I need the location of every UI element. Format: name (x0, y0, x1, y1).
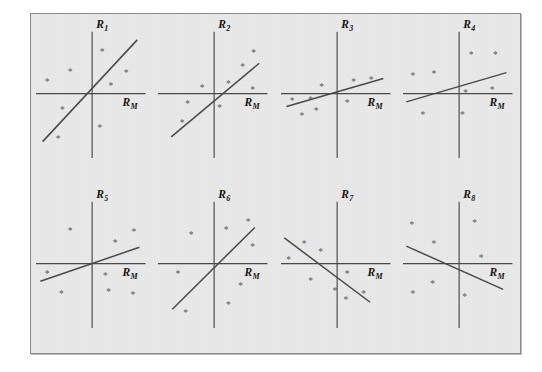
data-point-marker: * (431, 238, 436, 248)
data-point-marker: * (200, 83, 205, 93)
data-point-marker: * (462, 291, 467, 301)
data-point-marker: * (106, 286, 111, 296)
data-point-marker: * (410, 289, 415, 299)
data-point-marker: * (430, 278, 435, 288)
x-axis-label: RM (121, 265, 138, 280)
figure-root: ********R1RM********R2RM********R3RM****… (0, 0, 542, 372)
data-point-marker: * (251, 242, 256, 252)
y-axis-label-subscript: 3 (348, 24, 353, 33)
panel-canvas: *******R8RM (398, 184, 520, 354)
data-point-marker: * (45, 269, 50, 279)
y-axis-label: R7 (340, 188, 354, 203)
x-axis-label-subscript: M (496, 271, 505, 280)
y-axis-label-subscript: 2 (226, 24, 231, 33)
data-point-marker: * (246, 216, 251, 226)
data-point-marker: * (409, 220, 414, 230)
data-point-marker: * (313, 106, 318, 116)
y-axis-label: R5 (95, 188, 108, 203)
y-axis-label-subscript: 8 (471, 194, 475, 203)
x-axis-label: RM (121, 96, 138, 111)
data-point-marker: * (308, 276, 313, 286)
data-point-marker: * (103, 270, 108, 280)
data-point-marker: * (241, 62, 246, 72)
regression-line (43, 40, 138, 142)
scatter-panel-5: ********R5RM (31, 184, 153, 354)
x-axis-label-subscript: M (374, 271, 383, 280)
data-point-marker: * (344, 269, 349, 279)
x-axis-label-subscript: M (130, 271, 139, 280)
data-point-marker: * (420, 110, 425, 120)
x-axis-label: RM (488, 96, 505, 111)
data-point-marker: * (460, 110, 465, 120)
data-point-marker: * (368, 75, 373, 85)
data-point-marker: * (45, 77, 50, 87)
data-point-marker: * (343, 295, 348, 305)
scatter-panel-1: ********R1RM (31, 14, 153, 184)
data-point-marker: * (113, 237, 118, 247)
data-point-marker: * (132, 227, 137, 237)
y-axis-label: R2 (217, 18, 230, 33)
data-point-marker: * (289, 96, 294, 106)
data-point-marker: * (60, 105, 65, 115)
panel-canvas: ********R4RM (398, 14, 520, 184)
data-point-marker: * (186, 99, 191, 109)
data-point-marker: * (226, 79, 231, 89)
data-point-marker: * (479, 253, 484, 263)
scatter-panel-8: *******R8RM (398, 184, 520, 354)
y-axis-label-subscript: 4 (470, 24, 475, 33)
data-point-marker: * (176, 269, 181, 279)
data-point-marker: * (286, 255, 291, 265)
y-axis-label: R3 (340, 18, 353, 33)
data-point-marker: * (130, 290, 135, 300)
data-point-marker: * (251, 85, 256, 95)
regression-line (284, 237, 370, 301)
x-axis-label-subscript: M (130, 102, 139, 111)
scatter-panel-2: ********R2RM (153, 14, 275, 184)
data-point-marker: * (68, 226, 73, 236)
data-point-marker: * (463, 88, 468, 98)
y-axis-label: R4 (462, 18, 475, 33)
data-point-marker: * (361, 289, 366, 299)
y-axis-label-subscript: 6 (227, 194, 231, 203)
scatter-panel-7: ********R7RM (276, 184, 398, 354)
x-axis-label: RM (244, 265, 261, 280)
data-point-marker: * (431, 69, 436, 79)
x-axis-label: RM (244, 96, 261, 111)
y-axis-label: R1 (95, 18, 108, 33)
data-point-marker: * (490, 85, 495, 95)
data-point-marker: * (180, 118, 185, 128)
data-point-marker: * (59, 289, 64, 299)
scatter-panel-6: ********R6RM (153, 184, 275, 354)
data-point-marker: * (97, 123, 102, 133)
data-point-marker: * (301, 238, 306, 248)
x-axis-label-subscript: M (496, 102, 505, 111)
data-point-marker: * (68, 67, 73, 77)
data-point-marker: * (189, 229, 194, 239)
data-point-marker: * (224, 224, 229, 234)
panel-canvas: ********R7RM (276, 184, 398, 354)
panel-grid: ********R1RM********R2RM********R3RM****… (31, 14, 520, 353)
y-axis-label: R6 (217, 188, 230, 203)
figure-frame: ********R1RM********R2RM********R3RM****… (30, 13, 521, 354)
data-point-marker: * (410, 71, 415, 81)
y-axis-label: R8 (462, 188, 475, 203)
data-point-marker: * (218, 103, 223, 113)
panel-canvas: ********R1RM (31, 14, 153, 184)
y-axis-label-subscript: 1 (104, 24, 108, 33)
data-point-marker: * (252, 48, 257, 58)
data-point-marker: * (344, 98, 349, 108)
panel-canvas: ********R5RM (31, 184, 153, 354)
data-point-marker: * (472, 217, 477, 227)
y-axis-label-subscript: 5 (104, 194, 108, 203)
data-point-marker: * (308, 95, 313, 105)
x-axis-label: RM (366, 265, 383, 280)
x-axis-label-subscript: M (374, 102, 383, 111)
data-point-marker: * (226, 299, 231, 309)
x-axis-label: RM (488, 265, 505, 280)
panel-canvas: ********R2RM (153, 14, 275, 184)
x-axis-label-subscript: M (252, 271, 261, 280)
data-point-marker: * (299, 111, 304, 121)
x-axis-label: RM (366, 96, 383, 111)
x-axis-label-subscript: M (252, 102, 261, 111)
data-point-marker: * (493, 50, 498, 60)
